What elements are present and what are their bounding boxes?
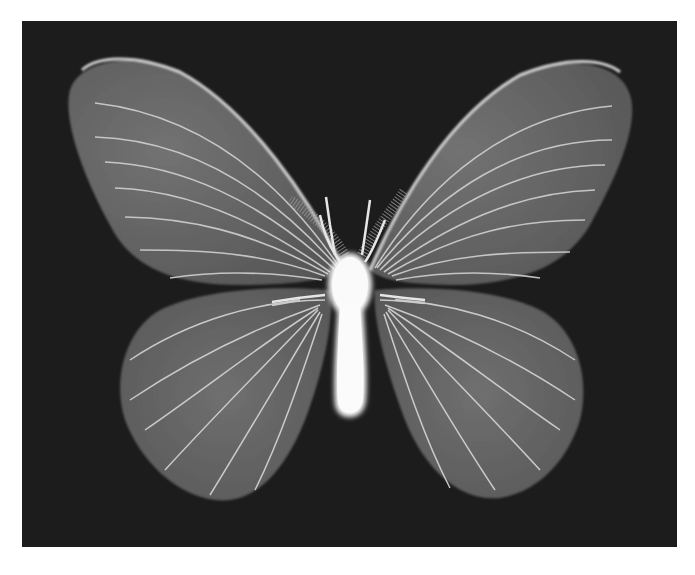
moth-xray-illustration [22, 21, 677, 547]
xray-photo-frame [22, 21, 677, 547]
